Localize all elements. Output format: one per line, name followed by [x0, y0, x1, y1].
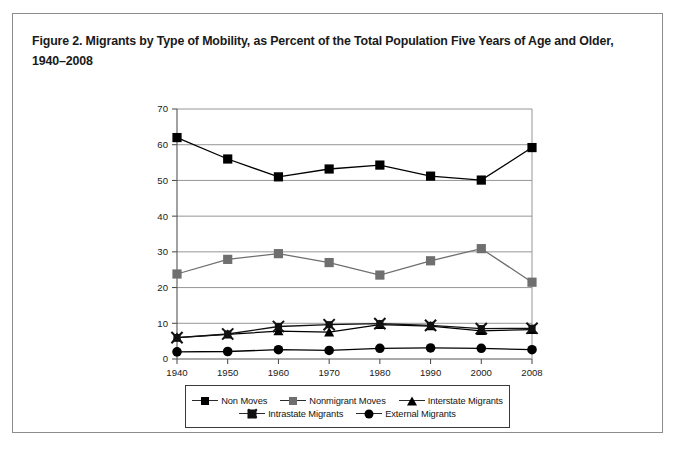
y-axis-tick-label: 60 [157, 139, 168, 150]
figure-title: Figure 2. Migrants by Type of Mobility, … [32, 31, 642, 71]
data-point-marker [223, 347, 233, 357]
x-axis-tick-label: 1960 [268, 367, 289, 378]
data-point-marker [375, 270, 384, 279]
x-axis-tick-label: 1990 [420, 367, 441, 378]
legend-label-intrastate-migrants: Intrastate Migrants [268, 409, 343, 419]
x-axis-tick-label: 1950 [217, 367, 238, 378]
data-point-marker [477, 244, 486, 253]
series-line [177, 249, 532, 283]
series-non-moves [172, 133, 536, 185]
data-point-marker [527, 345, 537, 355]
x-axis-tick-label: 2000 [471, 367, 492, 378]
data-point-marker [172, 133, 181, 142]
data-point-marker [476, 343, 486, 353]
legend-item-non-moves[interactable]: Non Moves [192, 395, 267, 406]
y-axis-tick-label: 10 [157, 318, 168, 329]
y-axis-tick-label: 30 [157, 246, 168, 257]
y-axis-tick-label: 50 [157, 175, 168, 186]
series-external-migrants [172, 343, 537, 357]
data-point-marker [274, 249, 283, 258]
legend-item-external-migrants[interactable]: External Migrants [356, 408, 456, 419]
data-point-marker [426, 172, 435, 181]
y-axis-tick-label: 40 [157, 211, 168, 222]
legend-marker-square-gray-icon [280, 395, 306, 406]
data-point-marker [527, 278, 536, 287]
x-axis-tick-label: 1980 [369, 367, 390, 378]
legend-item-nonmigrant-moves[interactable]: Nonmigrant Moves [280, 395, 385, 406]
legend-marker-x-square-icon [239, 408, 265, 419]
legend-item-intrastate-migrants[interactable]: Intrastate Migrants [239, 408, 343, 419]
data-point-marker [324, 346, 334, 356]
legend-label-nonmigrant-moves: Nonmigrant Moves [309, 396, 385, 406]
data-point-marker [426, 256, 435, 265]
data-point-marker [325, 258, 334, 267]
legend-marker-triangle-icon [399, 395, 425, 406]
y-axis-tick-label: 20 [157, 282, 168, 293]
data-point-marker [527, 143, 536, 152]
x-axis-tick-label: 1940 [166, 367, 187, 378]
legend-marker-circle-icon [356, 408, 382, 419]
x-axis-tick-label: 2008 [521, 367, 542, 378]
data-point-marker [375, 160, 384, 169]
legend-label-external-migrants: External Migrants [385, 409, 456, 419]
y-axis-tick-label: 70 [157, 103, 168, 114]
chart-plot-area: 0102030405060701940195019601970198019902… [13, 86, 664, 386]
legend-item-interstate-migrants[interactable]: Interstate Migrants [399, 395, 503, 406]
data-point-marker [223, 255, 232, 264]
legend-label-non-moves: Non Moves [221, 396, 267, 406]
series-intrastate-migrants [171, 318, 537, 343]
y-axis-tick-label: 0 [163, 353, 168, 364]
data-point-marker [426, 343, 436, 353]
line-chart: 0102030405060701940195019601970198019902… [13, 86, 664, 386]
series-nonmigrant-moves [172, 244, 536, 287]
x-axis-tick-label: 1970 [318, 367, 339, 378]
figure-card: Figure 2. Migrants by Type of Mobility, … [12, 13, 663, 433]
legend-row-1: Non Moves Nonmigrant Moves Interstate Mi… [192, 395, 503, 406]
data-point-marker [477, 175, 486, 184]
data-point-marker [172, 269, 181, 278]
legend-label-interstate-migrants: Interstate Migrants [428, 396, 503, 406]
data-point-marker [274, 345, 284, 355]
data-point-marker [172, 347, 182, 357]
chart-legend: Non Moves Nonmigrant Moves Interstate Mi… [185, 385, 510, 428]
data-point-marker [375, 343, 385, 353]
data-point-marker [274, 172, 283, 181]
legend-row-2: Intrastate Migrants External Migrants [239, 408, 456, 419]
legend-marker-square-black-icon [192, 395, 218, 406]
data-point-marker [325, 164, 334, 173]
data-point-marker [223, 154, 232, 163]
